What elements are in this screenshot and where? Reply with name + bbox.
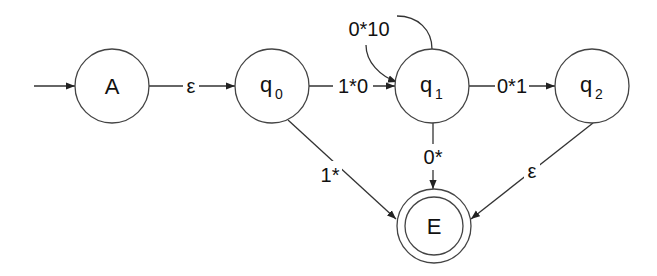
state-label: E xyxy=(427,214,442,239)
transition-q0-e: 1* xyxy=(288,120,396,219)
state-label: q xyxy=(580,72,592,97)
state-label: q xyxy=(420,72,432,97)
transition-label: 0* xyxy=(424,146,443,168)
transition-label: ε xyxy=(187,75,196,97)
transition-q1-e: 0* xyxy=(420,123,448,189)
transition-q2-e: ε xyxy=(471,123,593,219)
transition-label: 1* xyxy=(321,164,340,186)
state-e-accepting: E xyxy=(397,189,471,263)
svg-text:q: q xyxy=(260,72,272,97)
transition-label: 0*1 xyxy=(497,75,527,97)
state-diagram: ε 1*0 0*10 0*1 1* 0* ε A xyxy=(0,0,657,276)
state-subscript: 0 xyxy=(275,86,283,102)
state-subscript: 2 xyxy=(595,86,603,102)
svg-text:q: q xyxy=(420,72,432,97)
transition-label: ε xyxy=(528,160,537,182)
transition-label: 1*0 xyxy=(338,75,368,97)
state-q1: q 1 xyxy=(395,49,469,123)
state-q0: q 0 xyxy=(235,49,309,123)
transition-label: 0*10 xyxy=(348,18,389,40)
state-subscript: 1 xyxy=(435,86,443,102)
state-a: A xyxy=(75,49,149,123)
transition-q0-q1: 1*0 xyxy=(309,74,395,98)
state-q2: q 2 xyxy=(555,49,629,123)
transition-q1-q2: 0*1 xyxy=(469,74,555,98)
state-label: A xyxy=(105,74,120,99)
svg-text:q: q xyxy=(580,72,592,97)
transition-a-q0: ε xyxy=(149,74,235,98)
state-label: q xyxy=(260,72,272,97)
